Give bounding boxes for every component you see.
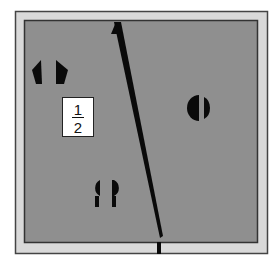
fraction-label: 1 2: [62, 97, 94, 137]
fraction-denominator: 2: [63, 120, 93, 135]
fraction-numerator: 1: [63, 102, 93, 117]
fraction-bar: [72, 117, 84, 118]
line-stub: [157, 242, 161, 254]
diagram-canvas: [0, 0, 280, 264]
